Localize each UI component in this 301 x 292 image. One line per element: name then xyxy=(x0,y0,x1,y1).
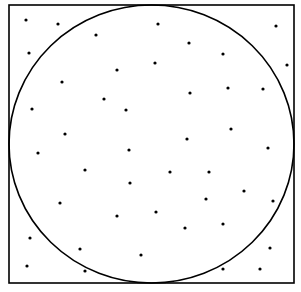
sample-point xyxy=(124,108,127,111)
sample-point xyxy=(127,148,130,151)
sample-point xyxy=(221,267,224,270)
sample-point xyxy=(221,52,224,55)
sample-point xyxy=(58,201,61,204)
sample-point xyxy=(268,246,271,249)
sample-point xyxy=(36,151,39,154)
sample-point xyxy=(102,97,105,100)
sample-point xyxy=(168,170,171,173)
sample-point xyxy=(63,132,66,135)
sample-point xyxy=(274,24,277,27)
sample-point xyxy=(94,33,97,36)
sample-point xyxy=(156,22,159,25)
sample-point xyxy=(221,222,224,225)
background xyxy=(0,0,301,292)
sample-point xyxy=(261,87,264,90)
sample-point xyxy=(185,137,188,140)
sample-point xyxy=(60,80,63,83)
sample-point xyxy=(229,127,232,130)
monte-carlo-diagram xyxy=(0,0,301,292)
sample-point xyxy=(266,146,269,149)
sample-point xyxy=(258,267,261,270)
sample-point xyxy=(27,51,30,54)
sample-point xyxy=(188,91,191,94)
sample-point xyxy=(271,199,274,202)
sample-point xyxy=(115,214,118,217)
sample-point xyxy=(183,226,186,229)
sample-point xyxy=(83,269,86,272)
sample-point xyxy=(226,86,229,89)
sample-point xyxy=(24,18,27,21)
sample-point xyxy=(30,107,33,110)
sample-point xyxy=(83,168,86,171)
sample-point xyxy=(207,170,210,173)
sample-point xyxy=(285,63,288,66)
sample-point xyxy=(128,181,131,184)
sample-point xyxy=(78,247,81,250)
sample-point xyxy=(187,41,190,44)
sample-point xyxy=(25,264,28,267)
sample-point xyxy=(154,210,157,213)
sample-point xyxy=(115,68,118,71)
sample-point xyxy=(56,22,59,25)
sample-point xyxy=(242,189,245,192)
sample-point xyxy=(28,236,31,239)
sample-point xyxy=(139,253,142,256)
sample-point xyxy=(153,61,156,64)
sample-point xyxy=(204,197,207,200)
